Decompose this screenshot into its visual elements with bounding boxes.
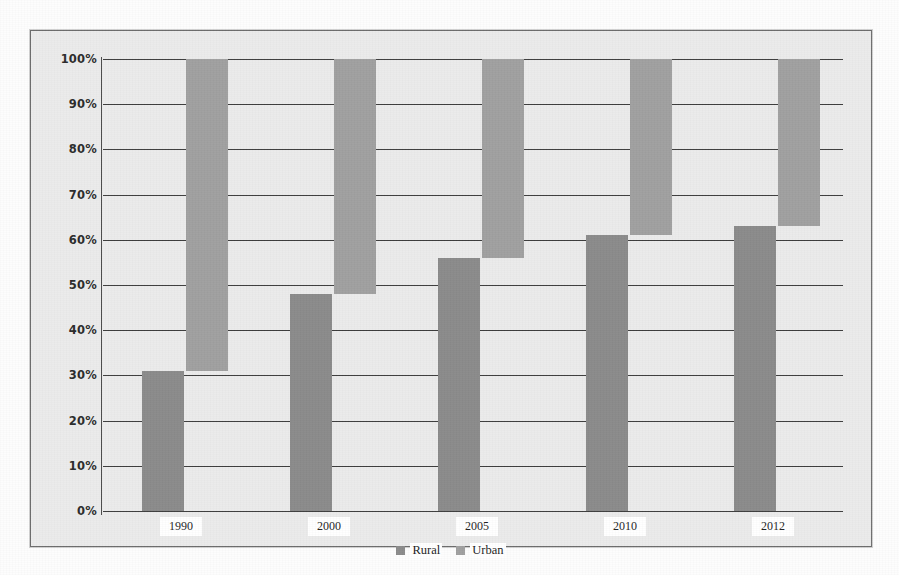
y-tick-label-100: 100% (37, 52, 97, 66)
y-tick-label-40: 40% (37, 323, 97, 337)
y-tick-label-20: 20% (37, 414, 97, 428)
bar-rural-2005 (438, 258, 480, 511)
bar-urban-2012 (778, 59, 820, 226)
bar-urban-2005 (482, 59, 524, 258)
chart-legend: RuralUrban (31, 543, 871, 558)
y-tick-label-10: 10% (37, 459, 97, 473)
bar-rural-2010 (586, 235, 628, 511)
bar-rural-2012 (734, 226, 776, 511)
y-tick-label-30: 30% (37, 368, 97, 382)
gridline-0 (103, 511, 843, 512)
legend-label-rural: Rural (410, 543, 442, 558)
x-axis-label-2005: 2005 (456, 517, 498, 536)
legend-swatch-urban (456, 546, 465, 555)
y-tick-label-90: 90% (37, 97, 97, 111)
legend-label-urban: Urban (470, 543, 505, 558)
plot-area (103, 59, 843, 511)
y-tick-label-70: 70% (37, 188, 97, 202)
y-axis-line (101, 57, 102, 515)
legend-item-rural[interactable]: Rural (396, 543, 442, 558)
bar-rural-2000 (290, 294, 332, 511)
bar-rural-1990 (142, 371, 184, 511)
x-axis-label-1990: 1990 (160, 517, 202, 536)
x-axis-label-2010: 2010 (604, 517, 646, 536)
bar-urban-1990 (186, 59, 228, 371)
y-tick-label-60: 60% (37, 233, 97, 247)
y-tick-label-50: 50% (37, 278, 97, 292)
legend-item-urban[interactable]: Urban (456, 543, 505, 558)
bar-urban-2000 (334, 59, 376, 294)
x-axis-label-2012: 2012 (752, 517, 794, 536)
x-axis-label-2000: 2000 (308, 517, 350, 536)
legend-swatch-rural (396, 546, 405, 555)
bar-urban-2010 (630, 59, 672, 235)
screenshot-root: 0%10%20%30%40%50%60%70%80%90%100% 199020… (0, 0, 899, 575)
chart-frame: 0%10%20%30%40%50%60%70%80%90%100% 199020… (30, 30, 872, 547)
y-tick-label-80: 80% (37, 142, 97, 156)
y-tick-label-0: 0% (37, 504, 97, 518)
y-axis-tick-labels: 0%10%20%30%40%50%60%70%80%90%100% (31, 59, 97, 511)
